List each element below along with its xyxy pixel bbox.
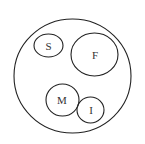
set-f: F <box>71 33 118 76</box>
set-s: S <box>34 34 63 57</box>
set-i: I <box>77 97 104 123</box>
diagram-svg: S F M I <box>0 0 145 144</box>
universe-circle <box>14 19 131 133</box>
set-s-label: S <box>45 40 51 52</box>
set-f-label: F <box>92 49 98 61</box>
set-i-label: I <box>89 104 93 116</box>
set-m-label: M <box>57 94 67 106</box>
venn-diagram: S F M I <box>0 0 145 144</box>
set-m: M <box>46 84 79 116</box>
